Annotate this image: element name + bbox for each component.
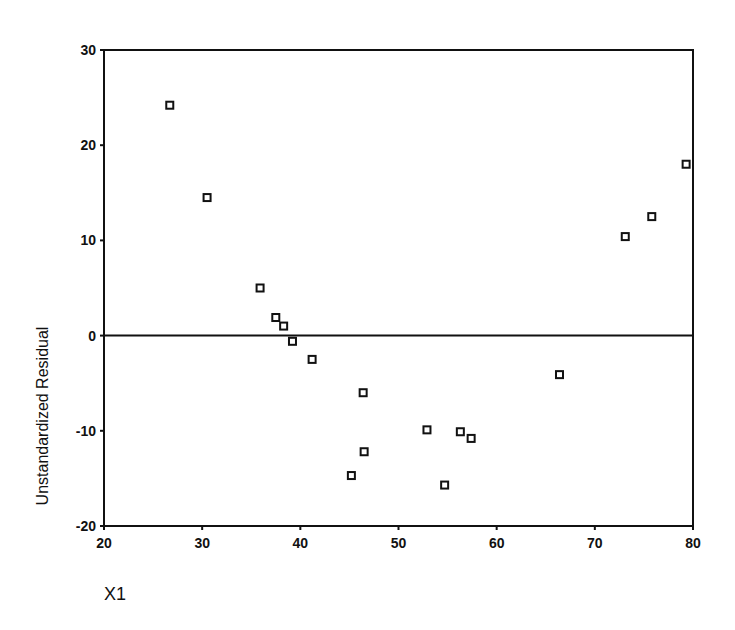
y-tick-label: 20 — [80, 137, 96, 153]
data-point-marker — [683, 161, 690, 168]
y-tick-label: 30 — [80, 42, 96, 58]
y-tick-label: 0 — [88, 328, 96, 344]
x-tick-label: 70 — [587, 535, 603, 551]
data-point-marker — [441, 482, 448, 489]
data-point-marker — [348, 472, 355, 479]
x-axis-title: X1 — [104, 584, 126, 605]
scatter-chart: 3020100-10-20 20304050607080 Unstandardi… — [0, 0, 735, 630]
y-tick-label: -10 — [76, 423, 96, 439]
data-point-marker — [272, 314, 279, 321]
x-tick-label: 40 — [293, 535, 309, 551]
data-point-marker — [361, 448, 368, 455]
x-tick-label: 30 — [194, 535, 210, 551]
data-point-marker — [457, 428, 464, 435]
y-axis-ticks: 3020100-10-20 — [76, 42, 104, 534]
y-tick-label: 10 — [80, 232, 96, 248]
plot-frame — [104, 50, 693, 526]
plot-border — [104, 50, 693, 526]
data-point-marker — [648, 213, 655, 220]
data-point-marker — [556, 371, 563, 378]
data-point-marker — [622, 233, 629, 240]
x-tick-label: 50 — [391, 535, 407, 551]
x-tick-label: 80 — [685, 535, 701, 551]
data-point-marker — [289, 338, 296, 345]
data-points — [166, 102, 689, 489]
x-tick-label: 60 — [489, 535, 505, 551]
data-point-marker — [468, 435, 475, 442]
data-point-marker — [280, 323, 287, 330]
data-point-marker — [166, 102, 173, 109]
y-tick-label: -20 — [76, 518, 96, 534]
data-point-marker — [309, 356, 316, 363]
x-axis-ticks: 20304050607080 — [96, 526, 701, 551]
data-point-marker — [360, 389, 367, 396]
data-point-marker — [423, 426, 430, 433]
y-axis-title: Unstandardized Residual — [34, 327, 51, 506]
x-tick-label: 20 — [96, 535, 112, 551]
data-point-marker — [257, 285, 264, 292]
data-point-marker — [204, 194, 211, 201]
